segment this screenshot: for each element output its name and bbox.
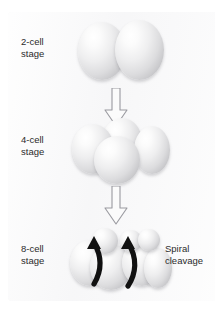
stage-label-2-cell-line1: 2-cell (21, 36, 44, 47)
blastomere (134, 126, 170, 174)
embryo-4-cell (72, 118, 170, 184)
stage-label-4-cell: 4-cell stage (21, 134, 44, 158)
stage-label-8-cell-line1: 8-cell (21, 243, 44, 254)
spiral-arrow-head-left (87, 236, 101, 249)
stage-label-4-cell-line2: stage (21, 146, 44, 158)
figure-root: Protostomes 2-cell stage 4-cell stage 8-… (0, 0, 223, 316)
spiral-arrow-head-right (121, 236, 135, 249)
spiral-arrow-path-right (128, 243, 135, 286)
down-arrow-icon (104, 186, 128, 226)
stage-label-8-cell: 8-cell stage (21, 243, 44, 267)
stage-label-2-cell-line2: stage (21, 48, 44, 60)
stage-label-2-cell: 2-cell stage (21, 36, 44, 60)
stage-label-4-cell-line1: 4-cell (21, 134, 44, 145)
spiral-cleavage-label-line1: Spiral (165, 243, 189, 254)
spiral-cleavage-label: Spiral cleavage (165, 243, 203, 267)
spiral-cleavage-label-line2: cleavage (165, 255, 203, 267)
embryo-2-cell (78, 20, 164, 82)
stage-label-8-cell-line2: stage (21, 255, 44, 267)
spiral-cleavage-arrows (70, 224, 172, 292)
blastomere (94, 136, 140, 184)
spiral-arrow-path-left (94, 243, 100, 284)
figure-title: Protostomes (0, 0, 223, 2)
blastomere (115, 20, 164, 80)
